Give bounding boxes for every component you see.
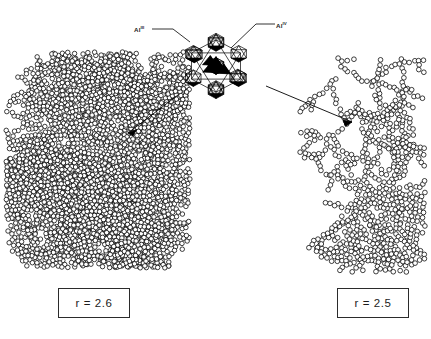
label-al-iv: AlIV: [276, 21, 287, 29]
fractal-dimension-box-left: r = 2.6: [58, 288, 130, 318]
label-al-iii: AlIII: [134, 25, 144, 33]
figure-canvas: AlIII AlIV r = 2.6 r = 2.5: [0, 0, 431, 339]
leader-line-al-iv: [231, 24, 275, 48]
label-al-iii-superscript: III: [141, 25, 145, 30]
fractal-dimension-left-text: r = 2.6: [75, 297, 112, 309]
leader-line-al-iii: [152, 29, 190, 42]
arrow-to-left-aggregate: [128, 95, 178, 136]
fractal-dimension-box-right: r = 2.5: [337, 288, 409, 318]
arrow-to-right-aggregate: [266, 86, 352, 126]
label-al-iii-text: Al: [134, 26, 141, 33]
label-al-iv-superscript: IV: [283, 21, 287, 26]
label-al-iv-text: Al: [276, 22, 283, 29]
fractal-dimension-right-text: r = 2.5: [354, 297, 391, 309]
